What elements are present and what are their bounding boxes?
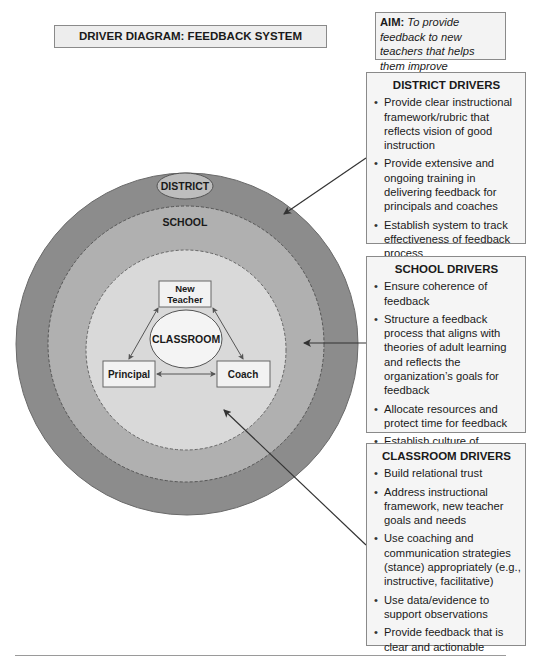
classroom-label: CLASSROOM — [152, 333, 221, 345]
school-label: SCHOOL — [163, 216, 209, 228]
bottom-divider — [15, 655, 506, 656]
district-drivers-list: Provide clear instructional framework/ru… — [372, 95, 521, 260]
list-item: Provide feedback that is clear and actio… — [372, 625, 521, 654]
new-teacher-label-2: Teacher — [167, 294, 203, 305]
district-driver-arrow — [284, 158, 366, 214]
district-drivers-box: DISTRICT DRIVERS Provide clear instructi… — [366, 72, 526, 244]
list-item: Provide extensive and ongoing training i… — [372, 156, 521, 213]
classroom-drivers-box: CLASSROOM DRIVERS Build relational trust… — [366, 443, 526, 646]
school-drivers-list: Ensure coherence of feedback Structure a… — [372, 279, 521, 463]
school-drivers-heading: SCHOOL DRIVERS — [372, 262, 521, 276]
list-item: Allocate resources and protect time for … — [372, 402, 521, 431]
coach-label: Coach — [228, 369, 259, 380]
list-item: Build relational trust — [372, 466, 521, 480]
principal-label: Principal — [108, 369, 150, 380]
list-item: Use data/evidence to support observation… — [372, 593, 521, 622]
list-item: Ensure coherence of feedback — [372, 279, 521, 308]
list-item: Use coaching and communication strategie… — [372, 531, 521, 588]
school-drivers-box: SCHOOL DRIVERS Ensure coherence of feedb… — [366, 256, 526, 433]
list-item: Provide clear instructional framework/ru… — [372, 95, 521, 152]
classroom-drivers-heading: CLASSROOM DRIVERS — [372, 449, 521, 463]
list-item: Structure a feedback process that aligns… — [372, 312, 521, 398]
classroom-drivers-list: Build relational trust Address instructi… — [372, 466, 521, 654]
list-item: Address instructional framework, new tea… — [372, 485, 521, 528]
list-item: Establish system to track effectiveness … — [372, 218, 521, 261]
new-teacher-label-1: New — [175, 283, 195, 294]
district-drivers-heading: DISTRICT DRIVERS — [372, 78, 521, 92]
district-label: DISTRICT — [161, 180, 210, 192]
